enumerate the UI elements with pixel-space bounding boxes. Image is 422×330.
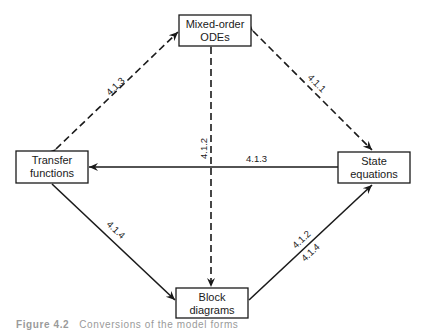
edge-transfer-to-block: 4.1.4 bbox=[52, 184, 175, 300]
figure-caption: Figure 4.2Conversions of the model forms bbox=[16, 319, 238, 330]
figure-caption-text: Conversions of the model forms bbox=[79, 319, 238, 330]
node-label-line2: diagrams bbox=[189, 304, 235, 316]
edge-block-to-state: 4.1.2 4.1.4 bbox=[249, 185, 372, 300]
node-label-line2: functions bbox=[30, 167, 75, 179]
edge-odes-state: 4.1.1 bbox=[253, 31, 372, 150]
node-label-line1: Mixed-order bbox=[186, 18, 245, 30]
solid-arrow-transfer-to-block bbox=[52, 184, 175, 300]
edge-label-odes-block: 4.1.2 bbox=[198, 138, 209, 159]
node-label-line1: Transfer bbox=[32, 154, 73, 166]
node-mixed-order-odes: Mixed-order ODEs bbox=[179, 15, 251, 46]
edge-state-to-transfer: 4.1.3 bbox=[89, 153, 338, 167]
edge-label-odes-state: 4.1.1 bbox=[306, 72, 329, 95]
solid-arrow-block-to-state bbox=[249, 185, 372, 300]
node-block-diagrams: Block diagrams bbox=[176, 288, 248, 318]
figure-number: Figure 4.2 bbox=[16, 319, 69, 330]
node-label-line1: State bbox=[361, 155, 387, 167]
edge-odes-transfer: 4.1.3 bbox=[56, 32, 178, 149]
node-transfer-functions: Transfer functions bbox=[16, 151, 88, 183]
dashed-arrow-odes-state bbox=[253, 31, 372, 150]
edge-label-odes-transfer: 4.1.3 bbox=[104, 75, 127, 98]
node-label-line2: ODEs bbox=[200, 31, 230, 43]
node-label-line2: equations bbox=[350, 168, 398, 180]
node-state-equations: State equations bbox=[338, 152, 410, 183]
node-label-line1: Block bbox=[199, 291, 226, 303]
edge-label-state-to-transfer: 4.1.3 bbox=[246, 153, 267, 164]
